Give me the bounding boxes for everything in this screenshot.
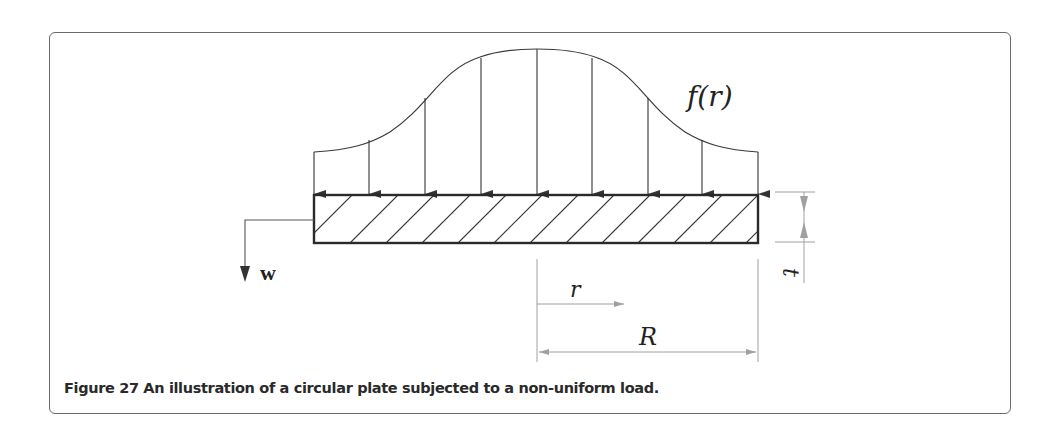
deflection-label: w [260,260,276,285]
load-arrows [314,49,758,194]
figure-caption: Figure 27 An illustration of a circular … [64,380,659,396]
arrow-head-icon [240,266,250,282]
thickness-label: t [778,268,803,277]
plate-section [314,195,794,243]
deflection-arrow: w [240,220,314,285]
radius-label: R [638,323,657,351]
load-function-label: f(r) [685,80,733,113]
plate-diagram: w f(r) r R t [0,0,1064,439]
radius-coord-label: r [570,277,582,302]
